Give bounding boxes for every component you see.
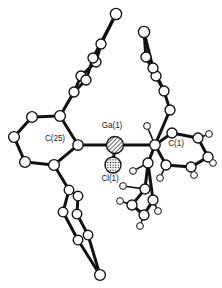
bond-L1-L2 [35, 116, 57, 117]
atom-body-lb6 [73, 235, 83, 245]
atom-body-l2 [27, 112, 38, 123]
atom-body-c1 [150, 140, 160, 150]
atom-body-rb4 [139, 210, 149, 220]
atom-body-ua1 [69, 87, 79, 97]
atom-body-h3 [210, 160, 217, 167]
atom-cl1 [105, 157, 121, 173]
atom-label-gallium: Ga(1) [102, 121, 123, 130]
atom-l4 [20, 157, 31, 168]
atom-body-lb3 [58, 207, 68, 217]
atom-l5 [49, 160, 60, 171]
atom-body-h6 [130, 168, 137, 175]
atom-body-l4 [20, 157, 31, 168]
atom-body-ra2 [193, 133, 203, 143]
atom-lb1 [64, 185, 74, 195]
atom-body-h8 [137, 223, 144, 230]
atom-h10 [120, 183, 127, 190]
crystal-structure-figure: Ga(1)Cl(1)C(25)C(1) [0, 0, 222, 288]
atom-body-rb2 [140, 184, 150, 194]
atom-h7 [117, 198, 124, 205]
atom-ub4 [141, 52, 151, 62]
atom-body-ua6 [81, 75, 91, 85]
atom-rb5 [148, 195, 158, 205]
atom-label-carbon-1: C(1) [168, 139, 184, 148]
atom-l1 [55, 111, 66, 122]
atom-body-l5 [49, 160, 60, 171]
atom-body-rb1 [143, 158, 153, 168]
atom-ub6 [138, 26, 149, 37]
atom-body-lb1 [64, 185, 74, 195]
atom-h5 [157, 175, 164, 182]
atom-body-ua5 [88, 53, 98, 63]
atom-body-h5 [157, 175, 164, 182]
atom-h2 [206, 131, 213, 138]
atom-rb1 [143, 158, 153, 168]
atom-ra1 [167, 128, 177, 138]
atom-body-rb5 [148, 195, 158, 205]
atom-lb4 [72, 209, 82, 219]
atom-ua6 [81, 75, 91, 85]
atom-label-chlorine: Cl(1) [101, 174, 119, 183]
atom-body-rb3 [127, 200, 137, 210]
atom-ub5 [148, 63, 158, 73]
atom-c1 [150, 140, 160, 150]
atom-body-lb4 [72, 209, 82, 219]
atom-body-ub6 [138, 26, 149, 37]
atom-ga1 [107, 137, 124, 154]
atom-body-h1 [144, 123, 151, 130]
atom-rb4 [139, 210, 149, 220]
atom-h6 [130, 168, 137, 175]
atom-lb5 [83, 230, 93, 240]
atom-body-ra4 [186, 162, 196, 172]
atom-body-ga1 [107, 137, 124, 154]
atom-body-lb7 [95, 270, 106, 281]
atom-ua7 [110, 8, 121, 19]
atom-ub2 [159, 86, 169, 96]
atom-body-lb2 [73, 191, 83, 201]
atom-ua5 [88, 53, 98, 63]
atom-body-l1 [55, 111, 66, 122]
atom-body-ub1 [165, 105, 175, 115]
atom-label-carbon-25: C(25) [45, 134, 65, 143]
atom-lb3 [58, 207, 68, 217]
atom-l2 [27, 112, 38, 123]
atom-ua1 [69, 87, 79, 97]
atom-body-ub4 [141, 52, 151, 62]
atom-l3 [9, 132, 20, 143]
atom-body-ua4 [96, 39, 106, 49]
atom-h3 [210, 160, 217, 167]
atom-lb2 [73, 191, 83, 201]
atom-body-ub5 [148, 63, 158, 73]
atom-body-h7 [117, 198, 124, 205]
atom-rb2 [140, 184, 150, 194]
atom-h4 [191, 172, 198, 179]
atom-body-h2 [206, 131, 213, 138]
ortep-diagram-canvas: Ga(1)Cl(1)C(25)C(1) [0, 0, 222, 288]
atom-body-ra5 [161, 160, 171, 170]
atom-ua4 [96, 39, 106, 49]
atom-lb7 [95, 270, 106, 281]
atom-body-ra1 [167, 128, 177, 138]
atom-h8 [137, 223, 144, 230]
atom-rb3 [127, 200, 137, 210]
atom-body-cl1 [105, 157, 121, 173]
atom-h9 [155, 208, 162, 215]
bond-RA4-RA5 [169, 165, 189, 167]
atom-ra4 [186, 162, 196, 172]
atom-body-h9 [155, 208, 162, 215]
atom-body-h4 [191, 172, 198, 179]
atom-body-h10 [120, 183, 127, 190]
atom-h1 [144, 123, 151, 130]
atom-body-lb5 [83, 230, 93, 240]
atom-body-c25 [73, 140, 83, 150]
atom-lb6 [73, 235, 83, 245]
atom-body-ub2 [159, 86, 169, 96]
atom-ra2 [193, 133, 203, 143]
atom-c25 [73, 140, 83, 150]
atom-ub1 [165, 105, 175, 115]
atom-body-l3 [9, 132, 20, 143]
atom-body-ua7 [110, 8, 121, 19]
atom-ra5 [161, 160, 171, 170]
